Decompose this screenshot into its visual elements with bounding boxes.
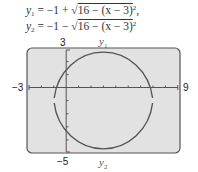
screen-frame bbox=[27, 48, 180, 153]
curve-label-y1: y1 bbox=[99, 35, 107, 50]
xmax-label: 9 bbox=[183, 82, 189, 93]
xmin-label: −3 bbox=[12, 82, 23, 93]
y1-label-sub: 1 bbox=[104, 42, 108, 50]
y2-label-sub: 2 bbox=[104, 163, 108, 171]
ymax-label: 3 bbox=[60, 37, 66, 48]
ymin-label: −5 bbox=[57, 156, 68, 167]
graph-screen bbox=[0, 0, 198, 172]
curve-label-y2: y2 bbox=[99, 156, 107, 171]
